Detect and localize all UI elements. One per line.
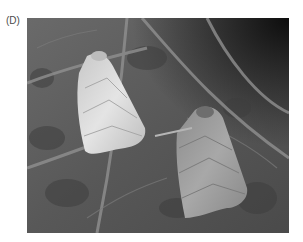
- moth-photo-illustration: [27, 18, 289, 233]
- panel-label: (D): [6, 15, 20, 26]
- moth-photo: [27, 18, 289, 233]
